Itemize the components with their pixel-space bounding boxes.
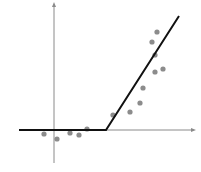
x-axis-arrow-icon: [191, 128, 196, 132]
data-point: [152, 69, 157, 74]
data-points: [41, 29, 165, 141]
data-point: [160, 66, 165, 71]
data-point: [137, 100, 142, 105]
data-point: [41, 131, 46, 136]
data-point: [76, 132, 81, 137]
data-point: [54, 136, 59, 141]
data-point: [140, 85, 145, 90]
data-point: [149, 39, 154, 44]
data-point: [67, 130, 72, 135]
relu-diagram: [0, 0, 201, 172]
data-point: [127, 109, 132, 114]
y-axis-arrow-icon: [52, 2, 56, 7]
axes: [19, 2, 196, 163]
data-point: [154, 29, 159, 34]
